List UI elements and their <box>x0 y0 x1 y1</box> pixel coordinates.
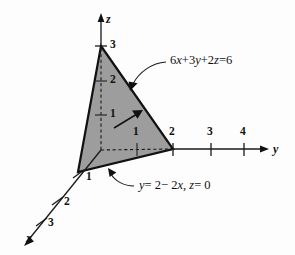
base-eq-rhs-2: = 0 <box>194 178 210 192</box>
y-axis-label: y <box>273 143 278 155</box>
y-axis-group <box>173 143 269 156</box>
plane-eq-equals: = <box>219 53 226 67</box>
z-axis-label: z <box>106 13 111 25</box>
base-eq-minus: − 2 <box>161 178 177 192</box>
plane-equation-leader <box>129 62 166 91</box>
x-axis-group <box>24 150 101 246</box>
coordinate-diagram-svg <box>0 0 295 255</box>
z-tick-label-2: 2 <box>110 74 116 86</box>
y-tick-label-3: 3 <box>207 126 213 138</box>
plane-eq-plus-2: + <box>201 53 208 67</box>
plane-eq-plus-1: + <box>182 53 189 67</box>
plane-triangle-face <box>78 46 173 172</box>
x-axis-label: x <box>26 232 32 244</box>
z-axis-arrowhead <box>98 13 105 22</box>
y-axis-arrowhead <box>260 146 269 153</box>
z-tick-label-1: 1 <box>110 108 116 120</box>
base-line-equation-label: y= 2− 2x, z= 0 <box>139 179 211 192</box>
y-tick-label-1: 1 <box>133 126 139 138</box>
base-line-leader-curve <box>111 174 134 186</box>
y-tick-label-4: 4 <box>240 126 246 138</box>
plane-eq-rhs: 6 <box>226 53 232 67</box>
plane-equation-leader-curve <box>133 62 166 84</box>
z-tick-label-3: 3 <box>110 39 116 51</box>
base-eq-rhs-1: = 2 <box>145 178 161 192</box>
x-tick-label-2: 2 <box>64 196 70 208</box>
y-tick-label-2: 2 <box>169 126 175 138</box>
base-line-leader <box>108 168 134 186</box>
x-tick-label-3: 3 <box>48 217 54 229</box>
figure-canvas: z y x 3 2 1 1 2 3 4 1 2 3 6x+3y+2z=6 y= … <box>0 0 295 255</box>
x-axis-line <box>30 150 101 238</box>
x-tick-3-mark <box>36 218 47 226</box>
x-tick-label-1: 1 <box>86 171 92 183</box>
plane-equation-label: 6x+3y+2z=6 <box>170 54 232 67</box>
base-eq-comma: , <box>183 178 186 192</box>
plane-equation-leader-arrowhead <box>129 82 138 91</box>
